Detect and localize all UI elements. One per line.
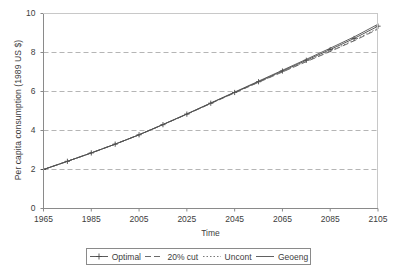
series-line-geoeng (44, 24, 379, 169)
chart-legend: Optimal20% cutUncontGeoeng (86, 248, 311, 265)
x-tick-label: 2005 (119, 214, 159, 224)
x-tick-label: 2085 (310, 214, 350, 224)
y-tick-label: 0 (12, 203, 36, 213)
legend-swatch-line-plus-marker (89, 252, 109, 261)
y-tick-label: 8 (12, 47, 36, 57)
y-tick-label: 4 (12, 125, 36, 135)
x-tick-label: 2025 (167, 214, 207, 224)
legend-label: Uncont (225, 252, 252, 262)
x-tick-label: 1965 (24, 214, 64, 224)
x-tick-label: 2045 (215, 214, 255, 224)
legend-entry-geoeng[interactable]: Geoeng (255, 252, 308, 262)
series-line-optimal (44, 26, 379, 169)
y-tick-label: 6 (12, 86, 36, 96)
chart-figure: Per capita consumption (1989 US $) Time … (0, 0, 396, 274)
x-axis-title: Time (43, 228, 378, 238)
legend-swatch-dashed-line (144, 252, 164, 261)
y-axis-title: Per capita consumption (1989 US $) (13, 15, 23, 205)
legend-label: Optimal (112, 252, 141, 262)
x-tick-label: 1985 (71, 214, 111, 224)
x-tick-label: 2105 (358, 214, 396, 224)
legend-label: 20% cut (167, 252, 198, 262)
legend-entry-uncont[interactable]: Uncont (202, 252, 252, 262)
y-tick-label: 10 (12, 8, 36, 18)
legend-entry-optimal[interactable]: Optimal (89, 252, 141, 262)
gridlines-group (44, 14, 379, 170)
legend-swatch-solid-line (255, 252, 275, 261)
legend-entry-20-cut[interactable]: 20% cut (144, 252, 198, 262)
legend-swatch-dotted-line (202, 252, 222, 261)
x-tick-label: 2065 (262, 214, 302, 224)
y-tick-label: 2 (12, 164, 36, 174)
legend-label: Geoeng (278, 252, 308, 262)
data-series-group (41, 24, 381, 173)
